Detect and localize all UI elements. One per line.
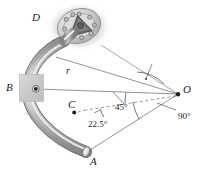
- label-angle-45: 45°: [115, 103, 128, 112]
- fixed-support-block: [20, 75, 44, 102]
- label-point-D: D: [32, 12, 40, 23]
- label-angle-22-5: 22.5°: [88, 120, 107, 129]
- label-point-B: B: [6, 82, 13, 93]
- pin-joint-B: [32, 85, 39, 92]
- engineering-figure: D B C O A r 45° 22.5° 90°: [0, 0, 204, 172]
- label-radius-r: r: [66, 66, 70, 76]
- label-angle-90: 90°: [178, 112, 191, 121]
- center-point-C: [72, 110, 76, 114]
- line-O-to-B: [37, 89, 178, 94]
- line-O-to-flange: [101, 45, 178, 94]
- leader-22-5: [94, 110, 100, 113]
- leader-lines: [94, 64, 176, 113]
- flange-hub: [78, 23, 84, 29]
- label-point-O: O: [183, 84, 191, 95]
- pivot-point-O: [176, 92, 180, 96]
- label-point-A: A: [90, 156, 97, 167]
- arc-22-5: [100, 109, 104, 118]
- dashed-line-C-short: [78, 110, 86, 112]
- arc-90: [133, 102, 139, 119]
- arc-marker-upper: [137, 72, 164, 84]
- leader-90: [157, 103, 176, 110]
- dashed-line-O-to-C: [86, 96, 176, 110]
- figure-canvas: [0, 0, 204, 172]
- label-point-C: C: [68, 99, 75, 110]
- line-O-to-arc-top: [56, 57, 178, 94]
- leader-dot-upper: [145, 78, 147, 80]
